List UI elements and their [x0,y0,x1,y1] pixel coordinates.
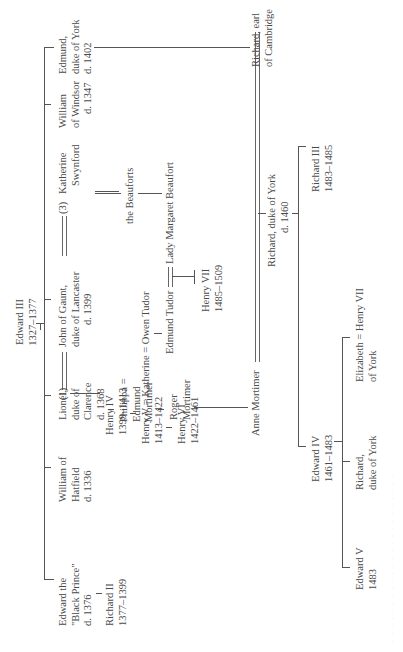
richard-duke-york-node: Richard, duke of York [354,435,379,490]
richard-duke-york-line1: Richard, [354,435,367,490]
drop-william-windsor [44,104,51,105]
richard-york-line2: d. 1460 [279,174,292,267]
richard-duke-york-line2: duke of York [367,435,380,490]
richard-ii-name: Richard II [104,579,117,626]
john-gaunt-line1: John of Gaunt, [57,272,70,347]
owen-tudor-child-link [154,333,162,334]
edmund-york-node: Edmund, duke of York d. 1402 [57,19,95,74]
edward-v-name: Edward V [354,547,367,590]
henry-vi-node: Henry VI 1422–1461 [176,397,201,444]
family-tree-diagram: Edward III 1327–1377 Edward the "Black P… [0,0,403,652]
richard-iii-drop [298,146,306,147]
richard-cambridge-node: Richard, earl of Cambridge [250,9,275,67]
black-prince-line1: Edward the [57,563,70,626]
york-children-bar [298,147,299,447]
richard-ii-node: Richard II 1377–1399 [104,579,129,626]
richard-ii-dates: 1377–1399 [117,579,130,626]
richard-iii-name: Richard III [310,145,323,192]
drop-william-hatfield [44,467,51,468]
wife1-marker-text: (1) [57,388,68,400]
william-windsor-line2: of Windsor [70,81,83,128]
edmund-york-line2: duke of York [70,19,83,74]
drop-edmund [44,47,54,48]
elizabeth-node: Elizabeth = Henry VII of York [354,288,379,382]
elizabeth-line2: of York [367,288,380,382]
root-drop [36,323,44,324]
katherine-swynford-line2: Swynford [70,145,83,194]
edmund-to-richard-cambridge [94,47,250,48]
black-prince-line2: "Black Prince" [70,563,83,626]
henry-iv-child-link [130,413,136,414]
henry-v-node: Henry V = Katherine = Owen Tudor 1413–14… [140,291,165,444]
henry-iv-node: Henry IV 1399–1413 [104,388,129,435]
wife3-marker: (3) [57,202,70,214]
william-hatfield-line1: William of [57,457,70,502]
elizabeth-drop [342,337,350,338]
black-prince-child-link [96,593,102,594]
drop-john-gaunt [44,299,51,300]
edmund-tudor-node: Edmund Tudor [164,291,177,354]
katherine-swynford-line1: Katherine [57,145,70,194]
anne-richard-marriage-line [255,32,260,362]
black-prince-node: Edward the "Black Prince" d. 1376 [57,563,95,626]
edward-iii-name: Edward III [14,292,27,352]
edward-iv-drop [298,446,306,447]
lionel-line2: duke of [70,383,83,420]
richard-cambridge-line2: of Cambridge [263,9,276,67]
william-hatfield-line3: d. 1336 [82,457,95,502]
henry-vi-dates: 1422–1461 [189,397,202,444]
john-gaunt-line2: duke of Lancaster [70,272,83,347]
sibling-bar [44,48,45,580]
root-connector [40,324,41,330]
henry-vii-dates: 1485–1509 [213,265,226,312]
henry-iv-dates: 1399–1413 [117,388,130,435]
william-hatfield-node: William of Hatfield d. 1336 [57,457,95,502]
margaret-beaufort-name: Lady Margaret Beaufort [164,162,175,264]
richard-iii-dates: 1483–1485 [323,145,336,192]
edmund-tudor-name: Edmund Tudor [164,291,175,354]
margaret-beaufort-node: Lady Margaret Beaufort [164,162,177,264]
beauforts-to-margaret [138,193,162,194]
richard-cambridge-line1: Richard, earl [250,9,263,67]
black-prince-line3: d. 1376 [82,563,95,626]
john-gaunt-node: John of Gaunt, duke of Lancaster d. 1399 [57,272,95,347]
john-gaunt-line3: d. 1399 [82,272,95,347]
marriage-line-1 [62,352,67,390]
edward-v-drop [342,567,350,568]
beauforts-node: the Beauforts [124,168,137,224]
henry-iv-name: Henry IV [104,388,117,435]
edward-iv-children-bar [342,338,343,568]
elizabeth-line1: Elizabeth = Henry VII [354,288,367,382]
lionel-line3: Clarence [82,383,95,420]
william-windsor-line3: d. 1347 [82,81,95,128]
drop-lionel [44,395,51,396]
william-windsor-line1: William [57,81,70,128]
richard-duke-york-drop [342,461,350,462]
richard-york-line1: Richard, duke of York [266,174,279,267]
edward-iii-node: Edward III 1327–1377 [14,292,39,352]
edward-v-dates: 1483 [367,547,380,590]
henry-v-line: Henry V = Katherine = Owen Tudor [140,291,153,444]
edward-iii-dates: 1327–1377 [27,292,40,352]
henry-iv-drop [70,393,100,394]
marriage-line-3 [62,216,67,256]
edmund-york-line3: d. 1402 [82,19,95,74]
bleed-through-text: · · · · · · · · · · · · · · · · · · · · … [390,473,396,642]
william-hatfield-line2: Hatfield [70,457,83,502]
henry-vi-name: Henry VI [176,397,189,444]
henry-vii-drop [172,276,194,277]
drop-black-prince [44,579,54,580]
wife3-marker-text: (3) [57,202,68,214]
edward-v-node: Edward V 1483 [354,547,379,590]
edmund-york-line1: Edmund, [57,19,70,74]
beauforts-drop [95,193,121,194]
tudor-beaufort-marriage [168,267,173,287]
richard-iii-node: Richard III 1483–1485 [310,145,335,192]
wife1-marker: (1) [57,388,70,400]
anne-mortimer-name: Anne Mortimer [250,370,261,436]
henry-v-child-link [166,427,172,428]
henry-vii-tick [194,270,195,284]
richard-york-node: Richard, duke of York d. 1460 [266,174,291,267]
edward-iv-node: Edward IV 1461–1483 [310,435,335,482]
henry-vii-name: Henry VII [200,265,213,312]
